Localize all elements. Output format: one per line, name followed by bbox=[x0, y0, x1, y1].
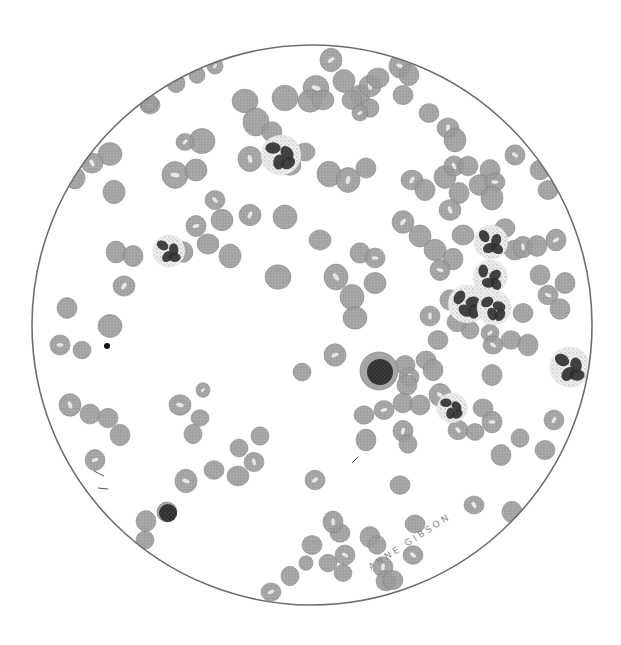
red-blood-cell bbox=[466, 424, 484, 441]
red-blood-cell bbox=[399, 64, 419, 85]
red-blood-cell bbox=[106, 241, 126, 263]
red-blood-cell bbox=[410, 395, 430, 415]
red-blood-cell bbox=[265, 265, 291, 289]
red-blood-cell bbox=[191, 410, 209, 426]
red-blood-cell bbox=[513, 304, 533, 323]
red-blood-cell bbox=[324, 264, 348, 290]
red-blood-cell bbox=[239, 204, 261, 225]
red-blood-cell bbox=[244, 452, 264, 471]
red-blood-cell bbox=[439, 200, 461, 221]
red-blood-cell bbox=[352, 105, 368, 121]
red-blood-cell bbox=[452, 225, 474, 245]
red-blood-cell bbox=[555, 272, 575, 293]
red-blood-cell bbox=[430, 260, 450, 281]
red-blood-cell bbox=[544, 410, 564, 430]
red-blood-cell bbox=[482, 365, 502, 386]
red-blood-cell bbox=[530, 265, 550, 285]
red-blood-cell bbox=[136, 511, 156, 532]
red-blood-cell bbox=[219, 244, 241, 268]
red-blood-cell bbox=[374, 401, 394, 420]
neutrophil bbox=[474, 225, 508, 259]
red-blood-cell bbox=[550, 299, 570, 320]
blood-smear-illustration bbox=[0, 0, 621, 645]
red-blood-cell bbox=[448, 420, 468, 439]
red-blood-cell bbox=[211, 209, 233, 231]
red-blood-cell bbox=[103, 180, 125, 203]
lymphocyte bbox=[157, 502, 177, 522]
red-blood-cell bbox=[65, 167, 85, 189]
red-blood-cell bbox=[230, 439, 248, 457]
red-blood-cell bbox=[399, 435, 417, 454]
red-blood-cell bbox=[365, 248, 385, 268]
red-blood-cell bbox=[323, 511, 343, 533]
red-blood-cell bbox=[415, 179, 435, 200]
red-blood-cell bbox=[511, 429, 529, 447]
red-blood-cell bbox=[98, 315, 122, 338]
red-blood-cell bbox=[169, 395, 191, 416]
red-blood-cell bbox=[340, 284, 364, 309]
red-blood-cell bbox=[204, 461, 224, 480]
red-blood-cell bbox=[98, 408, 118, 427]
neutrophil bbox=[477, 291, 511, 325]
red-blood-cell bbox=[205, 191, 225, 210]
smear-artifact bbox=[98, 488, 108, 489]
red-blood-cell bbox=[319, 554, 337, 571]
red-blood-cell bbox=[491, 445, 511, 466]
red-blood-cell bbox=[464, 496, 484, 514]
neutrophil bbox=[437, 393, 467, 423]
red-blood-cell bbox=[482, 411, 502, 433]
red-blood-cell bbox=[320, 48, 342, 72]
red-blood-cell bbox=[113, 276, 135, 296]
neutrophil bbox=[261, 135, 301, 175]
platelet-artifact bbox=[104, 343, 110, 349]
red-blood-cell bbox=[505, 145, 525, 165]
red-blood-cell bbox=[383, 570, 403, 589]
red-blood-cell bbox=[518, 334, 538, 356]
red-blood-cell bbox=[251, 427, 269, 445]
red-blood-cell bbox=[324, 344, 346, 366]
red-blood-cell bbox=[444, 128, 466, 152]
red-blood-cell bbox=[302, 536, 322, 555]
red-blood-cell bbox=[458, 156, 478, 176]
lymphocyte bbox=[360, 352, 398, 390]
red-blood-cell bbox=[393, 85, 413, 104]
red-blood-cell bbox=[186, 215, 206, 236]
red-blood-cell bbox=[334, 565, 352, 582]
red-blood-cell bbox=[293, 363, 311, 381]
red-blood-cell bbox=[390, 476, 410, 495]
red-blood-cell bbox=[481, 186, 503, 210]
red-blood-cell bbox=[428, 331, 448, 350]
red-blood-cell bbox=[309, 230, 331, 250]
red-blood-cell bbox=[546, 229, 566, 251]
red-blood-cell bbox=[57, 298, 77, 319]
red-blood-cell bbox=[136, 531, 154, 549]
red-blood-cell bbox=[281, 566, 299, 585]
red-blood-cell bbox=[80, 404, 100, 424]
red-blood-cell bbox=[184, 424, 202, 443]
red-blood-cell bbox=[367, 68, 389, 88]
red-blood-cell bbox=[420, 306, 440, 326]
red-blood-cell bbox=[50, 335, 70, 355]
cells-layer bbox=[50, 48, 590, 601]
red-blood-cell bbox=[335, 545, 355, 565]
red-blood-cell bbox=[423, 359, 443, 380]
red-blood-cell bbox=[227, 466, 249, 486]
smear-artifact bbox=[94, 471, 104, 476]
red-blood-cell bbox=[356, 429, 376, 451]
red-blood-cell bbox=[538, 180, 558, 199]
red-blood-cell bbox=[123, 245, 143, 266]
red-blood-cell bbox=[424, 239, 446, 260]
red-blood-cell bbox=[527, 236, 547, 257]
red-blood-cell bbox=[299, 556, 313, 571]
red-blood-cell bbox=[535, 440, 555, 459]
red-blood-cell bbox=[59, 394, 81, 417]
red-blood-cell bbox=[364, 272, 386, 293]
red-blood-cell bbox=[343, 307, 367, 329]
neutrophil bbox=[153, 235, 185, 267]
neutrophil bbox=[550, 347, 590, 387]
red-blood-cell bbox=[273, 205, 297, 229]
red-blood-cell bbox=[85, 450, 105, 471]
red-blood-cell bbox=[305, 470, 325, 490]
red-blood-cell bbox=[110, 424, 130, 445]
red-blood-cell bbox=[175, 469, 197, 493]
